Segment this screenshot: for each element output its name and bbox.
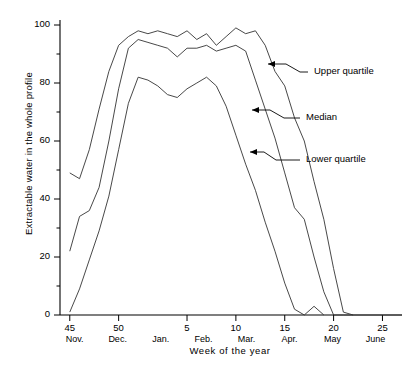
month-label: Mar. <box>225 334 269 344</box>
annotation-arrow-icon <box>252 107 259 113</box>
month-label: May <box>311 334 355 344</box>
x-tick-label: 5 <box>167 322 207 333</box>
y-axis-title: Extractable water in the whole profile <box>23 34 34 274</box>
month-label: Apr. <box>268 334 312 344</box>
y-axis-ticks <box>54 25 60 315</box>
annotation-arrow-icon <box>250 149 257 155</box>
month-label: Nov. <box>53 334 97 344</box>
series-line <box>70 28 353 315</box>
y-tick-label: 0 <box>18 308 50 319</box>
chart-figure: Extractable water in the whole profile W… <box>0 0 414 369</box>
y-tick-label: 40 <box>18 192 50 203</box>
y-tick-label: 80 <box>18 76 50 87</box>
month-label: June <box>354 334 398 344</box>
y-tick-label: 60 <box>18 134 50 145</box>
series-line <box>70 40 344 316</box>
month-label: Dec. <box>96 334 140 344</box>
month-label: Jan. <box>139 334 183 344</box>
series-line <box>70 77 324 315</box>
x-tick-label: 10 <box>216 322 256 333</box>
annotation-label-lower-quartile: Lower quartile <box>306 153 366 164</box>
annotation-label-median: Median <box>306 111 337 122</box>
annotation-leaders <box>250 61 308 160</box>
x-axis-title: Week of the year <box>60 345 400 356</box>
line-chart-canvas <box>0 0 414 369</box>
y-tick-label: 100 <box>18 18 50 29</box>
y-tick-label: 20 <box>18 250 50 261</box>
x-tick-label: 15 <box>265 322 305 333</box>
x-tick-label: 50 <box>99 322 139 333</box>
x-tick-label: 25 <box>362 322 402 333</box>
x-axis-ticks <box>70 315 383 321</box>
annotation-leader-line <box>250 152 300 160</box>
x-tick-label: 20 <box>314 322 354 333</box>
x-tick-label: 45 <box>50 322 90 333</box>
annotation-label-upper-quartile: Upper quartile <box>314 65 374 76</box>
month-label: Feb. <box>182 334 226 344</box>
